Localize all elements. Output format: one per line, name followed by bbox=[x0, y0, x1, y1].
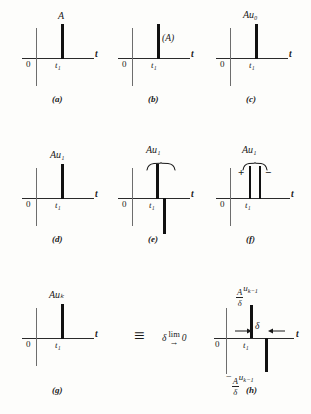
t-axis bbox=[216, 198, 290, 199]
amplitude-label: A bbox=[58, 11, 64, 21]
brace-icon bbox=[146, 157, 176, 175]
fraction-numerator: A bbox=[232, 377, 239, 386]
panel-d: Au₁ 0 t₁ t (d) bbox=[22, 150, 102, 240]
u-subscript: k−1 bbox=[243, 376, 253, 383]
panel-tag-f: (f) bbox=[246, 234, 255, 244]
origin-label: 0 bbox=[122, 200, 127, 209]
limit-arrow-icon: → bbox=[170, 339, 179, 346]
origin-label: 0 bbox=[220, 200, 225, 209]
impulse-bar bbox=[61, 164, 64, 199]
tick-label: t₁ bbox=[245, 201, 251, 210]
panel-g: Auₖ 0 t₁ t (g) bbox=[22, 290, 102, 390]
vertical-axis bbox=[132, 28, 133, 86]
vertical-axis bbox=[226, 308, 227, 374]
panel-tag-d: (d) bbox=[52, 234, 63, 244]
vertical-axis bbox=[36, 168, 37, 226]
origin-label: 0 bbox=[26, 60, 31, 69]
limit-stack: lim → bbox=[168, 330, 179, 346]
impulse-bar-down bbox=[265, 338, 268, 372]
tick-label: t₁ bbox=[55, 61, 61, 70]
origin-label: 0 bbox=[26, 200, 31, 209]
panel-tag-g: (g) bbox=[52, 385, 63, 395]
panel-b: (A) 0 t₁ t (b) bbox=[118, 10, 198, 88]
impulse-functions-figure: A 0 t₁ t (a) (A) 0 t₁ t (b) Au₀ 0 t₁ t (… bbox=[0, 0, 311, 414]
panel-h: δ A δ uk−1 − A δ uk−1 0 t₁ t (h) bbox=[214, 282, 306, 392]
u-subscript: k−1 bbox=[248, 287, 258, 294]
t-axis-label: t bbox=[95, 50, 98, 60]
tick-label: t₁ bbox=[149, 201, 155, 210]
panel-tag-c: (c) bbox=[246, 94, 256, 104]
identity-symbol: ≡ bbox=[134, 326, 145, 345]
fraction-denominator: δ bbox=[232, 388, 238, 397]
fraction-a-over-delta: A δ bbox=[232, 377, 239, 396]
vertical-axis bbox=[230, 28, 231, 86]
t-axis-label: t bbox=[296, 330, 299, 340]
vertical-axis bbox=[36, 28, 37, 86]
amplitude-label: (A) bbox=[162, 34, 174, 44]
tick-label: t₁ bbox=[249, 61, 255, 70]
panel-tag-b: (b) bbox=[148, 94, 159, 104]
amplitude-label: Au₁ bbox=[50, 150, 65, 160]
vertical-axis bbox=[36, 308, 37, 366]
tick-label: t₁ bbox=[55, 201, 61, 210]
t-axis-label: t bbox=[191, 190, 194, 200]
t-axis-label: t bbox=[95, 190, 98, 200]
panel-e: Au₁ 0 t₁ t (e) bbox=[118, 150, 198, 240]
impulse-bar bbox=[61, 304, 64, 339]
amplitude-label: Au₁ bbox=[242, 145, 257, 155]
vertical-axis bbox=[230, 168, 231, 226]
impulse-bar bbox=[255, 24, 258, 59]
panel-tag-a: (a) bbox=[52, 94, 63, 104]
t-axis-label: t bbox=[289, 50, 292, 60]
delta-width-indicator bbox=[234, 323, 286, 341]
origin-label: 0 bbox=[26, 340, 31, 349]
minus-sign-label: − bbox=[265, 167, 271, 178]
t-axis-label: t bbox=[191, 50, 194, 60]
panel-c: Au₀ 0 t₁ t (c) bbox=[216, 10, 298, 88]
amplitude-label: Auₖ bbox=[49, 290, 64, 300]
limit-target-label: 0 bbox=[182, 333, 187, 343]
panel-f: Au₁ + − 0 t₁ t (f) bbox=[216, 150, 298, 240]
panel-tag-h: (h) bbox=[246, 385, 257, 395]
impulse-bar bbox=[61, 24, 64, 59]
origin-label: 0 bbox=[215, 340, 220, 349]
limit-expression: δ lim → 0 bbox=[162, 330, 187, 346]
tick-label: t₁ bbox=[55, 341, 61, 350]
impulse-bar-down bbox=[163, 198, 166, 234]
limit-variable-label: δ bbox=[162, 333, 166, 343]
vertical-axis bbox=[132, 168, 133, 226]
tick-label: t₁ bbox=[243, 341, 249, 350]
plus-sign-label: + bbox=[238, 167, 244, 178]
top-amplitude-label: A δ uk−1 bbox=[236, 284, 258, 307]
t-axis-label: t bbox=[95, 330, 98, 340]
origin-label: 0 bbox=[122, 60, 127, 69]
amplitude-label: Au₀ bbox=[243, 10, 258, 20]
origin-label: 0 bbox=[220, 60, 225, 69]
panel-a: A 0 t₁ t (a) bbox=[22, 10, 102, 88]
amplitude-label: Au₁ bbox=[146, 145, 161, 155]
tick-label: t₁ bbox=[151, 61, 157, 70]
t-axis-label: t bbox=[291, 190, 294, 200]
delta-width-label: δ bbox=[255, 322, 259, 332]
impulse-bar bbox=[157, 24, 160, 59]
panel-tag-e: (e) bbox=[148, 234, 158, 244]
fraction-denominator: δ bbox=[237, 299, 243, 308]
